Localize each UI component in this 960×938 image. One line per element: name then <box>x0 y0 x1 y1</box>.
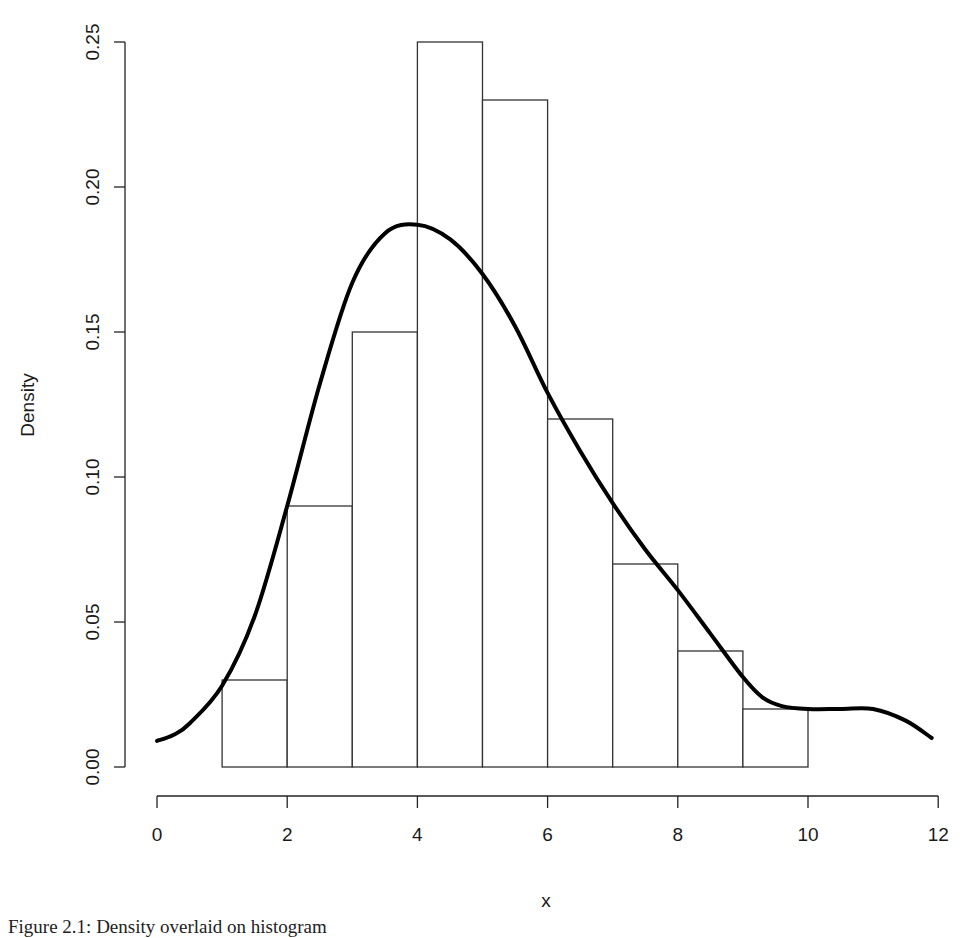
histogram-bar <box>613 564 678 767</box>
y-tick-label: 0.20 <box>82 169 103 206</box>
y-tick-label: 0.25 <box>82 24 103 61</box>
histogram-bar <box>483 100 548 767</box>
histogram-bar <box>352 332 417 767</box>
x-tick-label: 4 <box>412 824 423 845</box>
histogram-bar <box>743 709 808 767</box>
x-tick-label: 2 <box>282 824 293 845</box>
y-tick-label: 0.15 <box>82 314 103 351</box>
y-axis: 0.000.050.100.150.200.25 <box>82 24 125 786</box>
histogram-bar <box>548 419 613 767</box>
y-axis-title: Density <box>17 373 38 437</box>
x-tick-label: 10 <box>797 824 818 845</box>
x-tick-label: 6 <box>542 824 553 845</box>
histogram-bar <box>222 680 287 767</box>
x-tick-label: 8 <box>673 824 684 845</box>
histogram-bar <box>678 651 743 767</box>
figure-caption: Figure 2.1: Density overlaid on histogra… <box>8 916 327 938</box>
x-tick-label: 12 <box>928 824 949 845</box>
histogram-bars <box>222 42 808 767</box>
y-tick-label: 0.00 <box>82 749 103 786</box>
x-tick-label: 0 <box>152 824 163 845</box>
histogram-bar <box>417 42 482 767</box>
x-axis: 024681012 <box>152 796 949 845</box>
y-tick-label: 0.10 <box>82 459 103 496</box>
y-tick-label: 0.05 <box>82 604 103 641</box>
x-axis-title: x <box>541 890 551 911</box>
histogram-bar <box>287 506 352 767</box>
